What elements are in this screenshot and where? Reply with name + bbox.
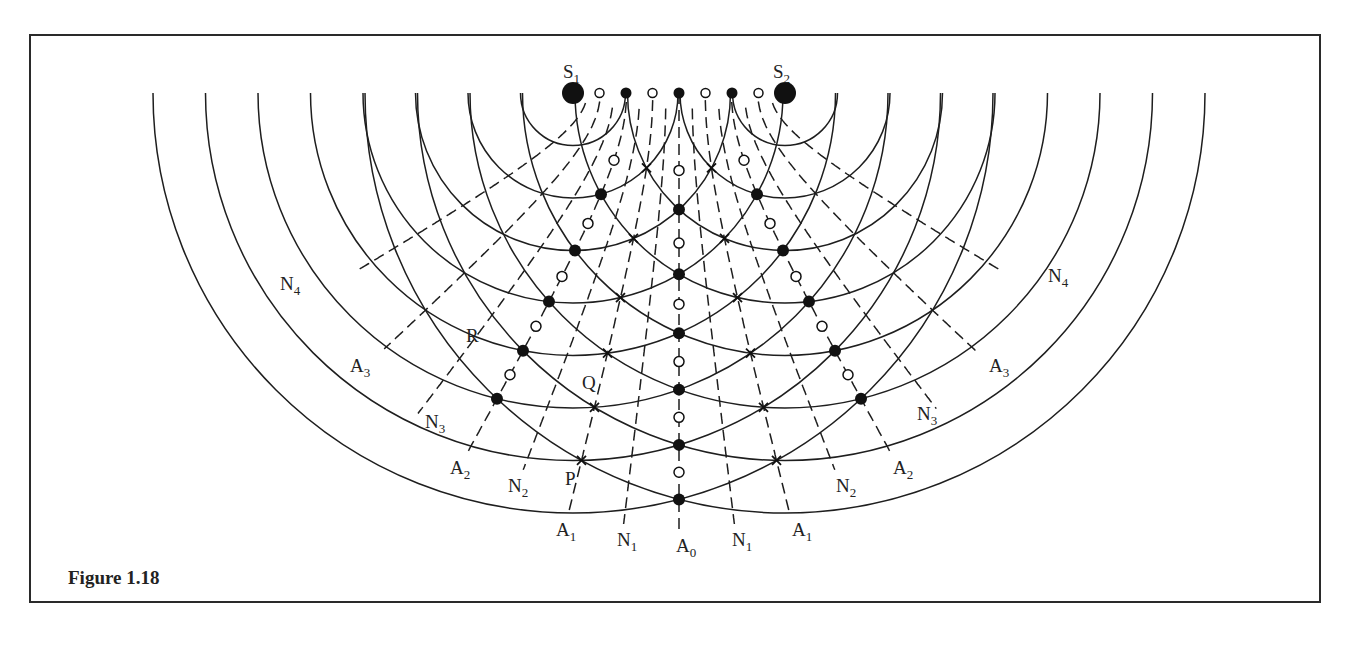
source-label-s2: S2 — [773, 61, 790, 86]
line-label-N2: N2 — [508, 475, 528, 500]
point-label-R: R — [466, 325, 479, 346]
trough-trough-circle — [531, 321, 541, 331]
trough-trough-circle — [674, 299, 684, 309]
trough-trough-circle — [609, 155, 619, 165]
wavefront-s1-5 — [311, 93, 836, 355]
trough-trough-circle — [701, 89, 710, 98]
crest-crest-dot — [673, 268, 685, 280]
line-label-A3: A3 — [350, 355, 370, 380]
line-A2-right — [732, 102, 892, 454]
trough-trough-circle — [674, 238, 684, 248]
point-label-Q: Q — [582, 372, 596, 393]
trough-trough-circle — [595, 89, 604, 98]
line-label-A2: A2 — [893, 457, 913, 482]
trough-trough-circle — [557, 271, 567, 281]
line-label-A1: A1 — [556, 519, 576, 544]
trough-trough-circle — [739, 155, 749, 165]
line-label-A3: A3 — [989, 355, 1009, 380]
crest-crest-dot — [569, 244, 581, 256]
crest-crest-dot — [673, 384, 685, 396]
line-label-N3: N3 — [425, 411, 445, 436]
crest-crest-dot — [673, 203, 685, 215]
crest-crest-dot — [727, 88, 738, 99]
crest-crest-dot — [595, 188, 607, 200]
trough-trough-circle — [674, 467, 684, 477]
line-label-N1: N1 — [617, 529, 637, 554]
line-label-N1: N1 — [732, 529, 752, 554]
line-label-N4: N4 — [1048, 265, 1069, 290]
line-label-N2: N2 — [836, 475, 856, 500]
crest-crest-dot — [751, 188, 763, 200]
trough-trough-circle — [674, 357, 684, 367]
crest-crest-dot — [543, 296, 555, 308]
line-A3-left — [384, 102, 600, 349]
trough-trough-circle — [648, 89, 657, 98]
labels: S1S2A0N1N1A1A1N2N2A2A2N3N3A3A3N4N4PQR — [280, 61, 1069, 560]
trough-trough-circle — [765, 218, 775, 228]
crest-crest-dot — [829, 345, 841, 357]
crest-crest-dot — [673, 439, 685, 451]
line-label-A0: A0 — [676, 535, 696, 560]
crest-crest-dot — [777, 244, 789, 256]
crest-crest-dot — [855, 393, 867, 405]
wavefront-s2-5 — [523, 93, 1048, 356]
line-label-N4: N4 — [280, 273, 301, 298]
point-label-P: P — [565, 468, 576, 489]
trough-trough-circle — [583, 218, 593, 228]
crest-crest-dot — [621, 88, 632, 99]
crest-crest-dot — [674, 88, 685, 99]
crest-crest-dot — [517, 345, 529, 357]
trough-trough-circle — [674, 165, 684, 175]
trough-trough-circle — [505, 370, 515, 380]
line-N4-left — [355, 103, 586, 272]
crest-crest-dot — [491, 393, 503, 405]
trough-trough-circle — [754, 89, 763, 98]
line-label-N3: N3 — [917, 403, 937, 428]
line-label-A1: A1 — [792, 519, 812, 544]
trough-trough-circle — [817, 321, 827, 331]
trough-trough-circle — [674, 412, 684, 422]
crest-crest-dot — [673, 327, 685, 339]
crest-crest-dot — [803, 296, 815, 308]
crest-crest-dot — [673, 493, 685, 505]
trough-trough-circle — [791, 271, 801, 281]
line-A2-left — [467, 102, 627, 454]
line-label-A2: A2 — [450, 457, 470, 482]
interference-diagram: S1S2A0N1N1A1A1N2N2A2A2N3N3A3A3N4N4PQR — [0, 0, 1356, 645]
trough-trough-circle — [843, 370, 853, 380]
